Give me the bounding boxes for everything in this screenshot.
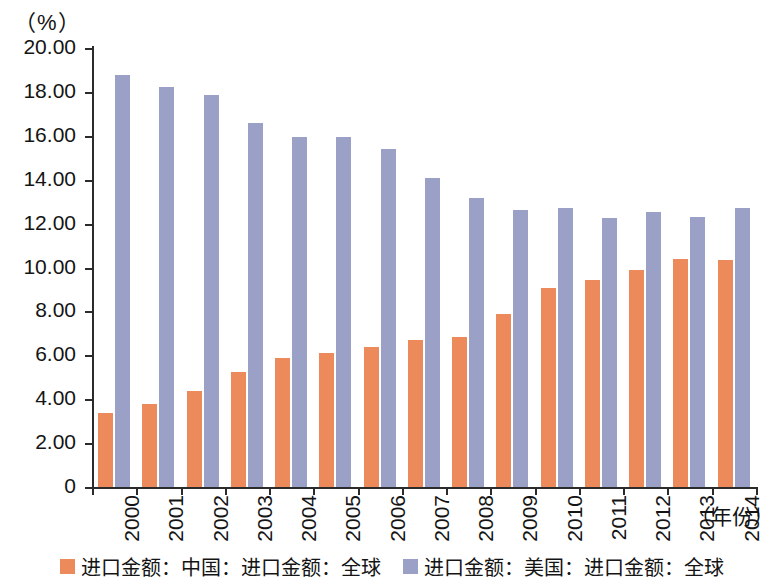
y-axis-tick-label: 18.00 <box>23 79 76 103</box>
x-axis-tick <box>535 487 537 495</box>
x-axis-label-2002: 2002 <box>209 495 233 542</box>
bar-group <box>496 48 540 487</box>
y-axis-tick-label: 20.00 <box>23 35 76 59</box>
x-axis-tick <box>446 487 448 495</box>
bar-group <box>98 48 142 487</box>
x-axis-label-2007: 2007 <box>430 495 454 542</box>
x-axis-label-2008: 2008 <box>474 495 498 542</box>
bar-china-2004 <box>275 358 290 487</box>
legend-swatch-icon <box>60 559 75 574</box>
bar-china-2014 <box>718 260 733 487</box>
y-axis-tick: 14.00 <box>85 180 92 182</box>
bar-group <box>541 48 585 487</box>
x-axis-label-2003: 2003 <box>253 495 277 542</box>
bar-group <box>452 48 496 487</box>
chart-legend: 进口金额：中国：进口金额：全球进口金额：美国：进口金额：全球 <box>0 552 783 580</box>
y-axis-tick: 12.00 <box>85 224 92 226</box>
bar-china-2007 <box>408 340 423 488</box>
bar-group <box>629 48 673 487</box>
y-axis-tick-label: 8.00 <box>35 298 76 322</box>
x-axis-label-2012: 2012 <box>651 495 675 542</box>
legend-item-china[interactable]: 进口金额：中国：进口金额：全球 <box>60 552 381 580</box>
x-axis-tick <box>358 487 360 495</box>
y-axis-unit-label: （%） <box>14 4 81 36</box>
y-axis-tick: 2.00 <box>85 443 92 445</box>
x-axis-tick <box>579 487 581 495</box>
y-axis-tick: 6.00 <box>85 355 92 357</box>
y-axis-tick: 18.00 <box>85 92 92 94</box>
x-axis-title: （年份） <box>690 500 774 530</box>
legend-label: 进口金额：美国：进口金额：全球 <box>424 552 724 580</box>
bar-group <box>275 48 319 487</box>
bar-group <box>585 48 629 487</box>
bar-usa-2008 <box>469 198 484 487</box>
legend-swatch-icon <box>403 559 418 574</box>
plot-area: 02.004.006.008.0010.0012.0014.0016.0018.… <box>92 48 756 487</box>
y-axis-tick-label: 6.00 <box>35 342 76 366</box>
bar-group <box>231 48 275 487</box>
bar-usa-2013 <box>690 217 705 487</box>
y-axis-tick-label: 4.00 <box>35 386 76 410</box>
x-axis-tick <box>181 487 183 495</box>
bar-usa-2003 <box>248 123 263 487</box>
bar-china-2006 <box>364 347 379 487</box>
y-axis-tick: 4.00 <box>85 399 92 401</box>
bar-group <box>408 48 452 487</box>
y-axis-tick-label: 2.00 <box>35 430 76 454</box>
x-axis-label-2011: 2011 <box>607 495 631 540</box>
x-axis-tick <box>92 487 94 495</box>
x-axis-tick <box>712 487 714 495</box>
bar-usa-2011 <box>602 218 617 487</box>
y-axis-tick: 8.00 <box>85 311 92 313</box>
bar-usa-2012 <box>646 212 661 487</box>
y-axis-tick-label: 0 <box>64 474 76 498</box>
y-axis-tick-label: 12.00 <box>23 211 76 235</box>
bar-usa-2001 <box>159 87 174 487</box>
x-axis-tick <box>402 487 404 495</box>
x-axis-tick <box>313 487 315 495</box>
y-axis-tick: 0 <box>85 487 92 489</box>
x-axis-label-2001: 2001 <box>164 495 188 542</box>
x-axis-tick <box>490 487 492 495</box>
bar-group <box>142 48 186 487</box>
bar-group <box>718 48 762 487</box>
x-axis-tick <box>225 487 227 495</box>
x-axis-tick-labels: 2000200120022003200420052006200720082009… <box>92 489 758 549</box>
x-axis-label-2009: 2009 <box>518 495 542 542</box>
x-axis-tick <box>136 487 138 495</box>
legend-label: 进口金额：中国：进口金额：全球 <box>81 552 381 580</box>
bar-china-2001 <box>142 404 157 487</box>
x-axis-label-2005: 2005 <box>341 495 365 542</box>
x-axis-tick <box>623 487 625 495</box>
bar-usa-2000 <box>115 75 130 487</box>
bar-usa-2010 <box>558 208 573 487</box>
bar-china-2003 <box>231 372 246 487</box>
bar-china-2011 <box>585 280 600 487</box>
x-axis-label-2010: 2010 <box>563 495 587 542</box>
bar-usa-2004 <box>292 137 307 487</box>
x-axis-label-2000: 2000 <box>120 495 144 542</box>
bar-group <box>319 48 363 487</box>
bar-chart: （%） 02.004.006.008.0010.0012.0014.0016.0… <box>0 0 783 580</box>
bar-usa-2014 <box>735 208 750 487</box>
bar-usa-2005 <box>336 137 351 487</box>
x-axis-tick <box>756 487 758 495</box>
bar-china-2010 <box>541 288 556 487</box>
x-axis-tick <box>667 487 669 495</box>
x-axis-label-2004: 2004 <box>297 495 321 542</box>
y-axis-tick-label: 16.00 <box>23 123 76 147</box>
bar-china-2008 <box>452 337 467 487</box>
bar-china-2012 <box>629 270 644 487</box>
y-axis-tick: 10.00 <box>85 268 92 270</box>
bar-usa-2009 <box>513 210 528 487</box>
bar-china-2005 <box>319 353 334 487</box>
legend-item-usa[interactable]: 进口金额：美国：进口金额：全球 <box>403 552 724 580</box>
bar-usa-2006 <box>381 149 396 487</box>
bar-china-2013 <box>673 259 688 487</box>
bar-china-2000 <box>98 413 113 487</box>
y-axis-tick: 20.00 <box>85 48 92 50</box>
x-axis-label-2006: 2006 <box>386 495 410 542</box>
y-axis-tick-label: 14.00 <box>23 167 76 191</box>
bar-group <box>364 48 408 487</box>
bar-china-2009 <box>496 314 511 487</box>
